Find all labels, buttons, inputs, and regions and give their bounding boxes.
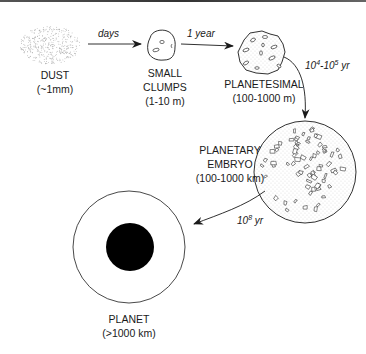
small-clumps-size: (1-10 m): [143, 94, 187, 108]
time-label-10e4-10e5-yr: 104-105 yr: [305, 59, 350, 71]
planetesimal-name: PLANETESIMAL: [224, 77, 303, 91]
small-clumps-label: SMALL CLUMPS (1-10 m): [143, 66, 187, 108]
time-unit: yr: [252, 215, 263, 226]
embryo-name-line1: PLANETARY: [196, 143, 264, 157]
planetesimal-label: PLANETESIMAL (100-1000 m): [224, 77, 303, 105]
planetesimal-icon: [238, 31, 285, 74]
dust-cloud-icon: [20, 26, 80, 64]
dust-label: DUST (~1mm): [37, 68, 73, 96]
time-label-10e8-yr: 108 yr: [237, 214, 263, 226]
planet-formation-diagram: DUST (~1mm) SMALL CLUMPS (1-10 m) PLANET…: [0, 0, 366, 354]
arrow-clumps-to-planetesimal: [181, 44, 233, 46]
time-base: 10: [305, 60, 316, 71]
time-label-1-year: 1 year: [187, 28, 215, 39]
planetesimal-size: (100-1000 m): [224, 91, 303, 105]
planet-icon: [73, 191, 185, 303]
embryo-name-line2: EMBRYO: [196, 157, 264, 171]
planet-label: PLANET (>1000 km): [102, 312, 155, 340]
planetary-embryo-icon: [254, 121, 356, 223]
time-base: 10: [323, 60, 334, 71]
small-clumps-name-line2: CLUMPS: [143, 80, 187, 94]
small-clumps-name-line1: SMALL: [143, 66, 187, 80]
small-clump-icon: [148, 30, 176, 60]
dust-name: DUST: [37, 68, 73, 82]
planetary-embryo-label: PLANETARY EMBRYO (100-1000 km): [196, 143, 264, 185]
dust-size: (~1mm): [37, 82, 73, 96]
time-base: 10: [237, 215, 248, 226]
time-unit: yr: [338, 60, 349, 71]
planet-name: PLANET: [102, 312, 155, 326]
planet-size: (>1000 km): [102, 326, 155, 340]
embryo-size: (100-1000 km): [196, 171, 264, 185]
time-label-days: days: [98, 28, 119, 39]
diagram-graphics: [0, 0, 366, 354]
